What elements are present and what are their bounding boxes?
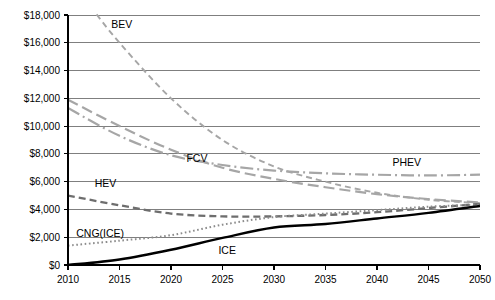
y-tick-label-0: $0 <box>49 260 61 271</box>
series-line-ice <box>68 206 480 265</box>
y-axis-labels: $0$2,000$4,000$6,000$8,000$10,000$12,000… <box>24 10 61 271</box>
x-tick-label-2040: 2040 <box>366 274 389 285</box>
series-label-ice: ICE <box>218 244 236 256</box>
gridlines <box>68 15 480 237</box>
x-tick-label-2045: 2045 <box>417 274 440 285</box>
line-chart: $0$2,000$4,000$6,000$8,000$10,000$12,000… <box>0 0 495 300</box>
series-label-hev: HEV <box>95 177 117 189</box>
x-axis-labels: 201020152020202520302035204020452050 <box>57 274 492 285</box>
x-tick-label-2035: 2035 <box>314 274 337 285</box>
y-tick-label-6000: $6,000 <box>29 176 60 187</box>
y-tick-label-18000: $18,000 <box>24 10 61 21</box>
series-label-fcv: FCV <box>186 152 207 164</box>
series-label-phev: PHEV <box>392 156 421 168</box>
series-label-cngice: CNG(ICE) <box>76 227 124 239</box>
x-tick-label-2010: 2010 <box>57 274 80 285</box>
x-tick-label-2050: 2050 <box>469 274 492 285</box>
x-tick-label-2020: 2020 <box>160 274 183 285</box>
y-tick-label-2000: $2,000 <box>29 232 60 243</box>
x-tick-label-2025: 2025 <box>211 274 234 285</box>
x-tick-label-2015: 2015 <box>108 274 131 285</box>
y-tick-label-16000: $16,000 <box>24 37 61 48</box>
series-label-bev: BEV <box>111 18 132 30</box>
series-lines <box>68 7 480 265</box>
chart-container: $0$2,000$4,000$6,000$8,000$10,000$12,000… <box>0 0 495 300</box>
series-line-phev <box>68 100 480 203</box>
series-line-bev <box>91 7 480 204</box>
y-tick-label-8000: $8,000 <box>29 148 60 159</box>
series-line-cngice <box>68 205 480 246</box>
y-tick-label-10000: $10,000 <box>24 121 61 132</box>
y-tick-label-4000: $4,000 <box>29 204 60 215</box>
y-tick-label-12000: $12,000 <box>24 93 61 104</box>
x-tick-label-2030: 2030 <box>263 274 286 285</box>
y-tick-label-14000: $14,000 <box>24 65 61 76</box>
